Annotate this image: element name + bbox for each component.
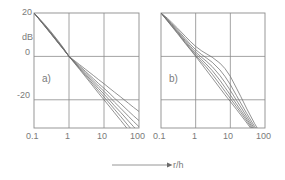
panel-label-b: b) bbox=[169, 74, 178, 84]
panel-b-xtick-10: 10 bbox=[223, 132, 233, 141]
panel-a-curve-6 bbox=[34, 13, 139, 112]
x-axis-arrow-group bbox=[112, 162, 173, 167]
right-arrow-icon-head bbox=[167, 162, 173, 167]
panel-a-curve-5 bbox=[34, 13, 139, 121]
panel-b-xtick-1: 1 bbox=[192, 132, 197, 141]
panel-a-ytick-0: 0 bbox=[25, 48, 30, 57]
panel-a-xtick-1: 1 bbox=[65, 132, 70, 141]
panel-a-axis-title-db: dB bbox=[22, 33, 33, 42]
panel-a-xtick-10: 10 bbox=[97, 132, 107, 141]
dual-log-plot-svg bbox=[0, 0, 285, 180]
x-axis-caption: r/h bbox=[173, 160, 184, 170]
panel-a-ytick-20: 20 bbox=[22, 8, 32, 17]
panel-a-xtick-100: 100 bbox=[130, 132, 145, 141]
panel-a-ytick-minus20: -20 bbox=[17, 91, 30, 100]
panel-label-a: a) bbox=[42, 74, 51, 84]
figure-container: 20 dB 0 -20 0.1 1 10 100 a) 0.1 1 10 100… bbox=[0, 0, 285, 180]
panel-b-xtick-0.1: 0.1 bbox=[153, 132, 166, 141]
panel-b-xtick-100: 100 bbox=[256, 132, 271, 141]
panel-a-xtick-0.1: 0.1 bbox=[26, 132, 39, 141]
